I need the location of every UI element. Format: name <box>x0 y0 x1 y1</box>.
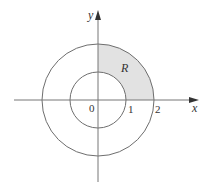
x-axis-label: x <box>191 101 198 115</box>
origin-label: 0 <box>89 102 95 114</box>
polar-region-diagram: y x 0 1 2 R <box>0 0 207 188</box>
region-label: R <box>120 61 129 75</box>
tick-label-1: 1 <box>128 103 134 115</box>
tick-label-2: 2 <box>155 103 161 115</box>
y-axis-arrow-icon <box>95 10 101 20</box>
y-axis-label: y <box>87 8 94 22</box>
